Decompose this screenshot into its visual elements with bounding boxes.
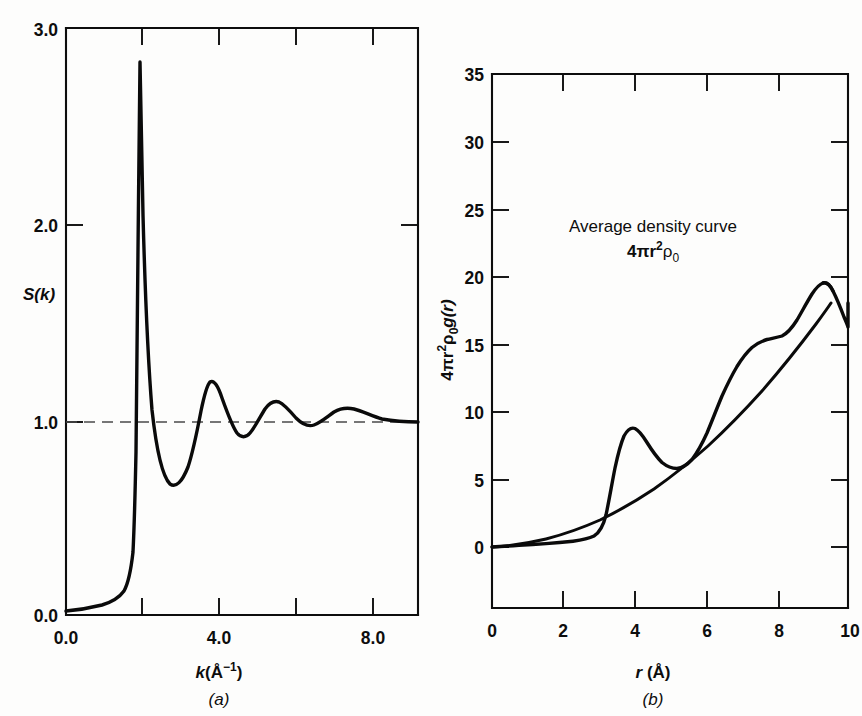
panel-b-xlabel-2: 2 [558,621,568,641]
x-title-paren-close: ) [237,663,243,682]
panel-b-ylabel-0: 0 [474,538,484,558]
svg-text:4πr2ρ0g(r): 4πr2ρ0g(r) [435,299,461,381]
curve-radial-distribution [492,283,848,547]
panel-b-ylabel-20: 20 [465,268,485,288]
panel-b-xlabel-4: 4 [630,621,640,641]
panel-b-x-ticks [563,74,779,608]
annotation-line-2: 4πr2ρ0 [627,239,679,265]
panel-b-xlabel-6: 6 [702,621,712,641]
annotation-line-1: Average density curve [569,217,737,236]
curve-radial-distribution-tail [823,283,833,291]
angstrom-icon: Å [211,663,223,682]
panel-b-x-axis-title: r (Å) [636,663,671,682]
axis-top-right [492,74,848,608]
panel-b-xlabel-10: 10 [840,621,860,641]
panel-a-ylabel-0: 0.0 [34,606,59,626]
panel-b-svg: Average density curve 4πr2ρ0 35 30 25 20… [431,0,862,716]
angstrom-icon: (Å) [647,663,671,682]
panel-a-x-ticks [142,28,373,615]
y-title-g-of-r: g(r) [438,299,457,329]
panel-a-axes [66,28,418,615]
panel-a-y-axis-title: S(k) [23,285,55,304]
average-density-annotation: Average density curve 4πr2ρ0 [569,217,737,265]
svg-text:k(Å−1): k(Å−1) [196,660,243,682]
panel-a-y-ticks [66,225,418,422]
panel-b-ylabel-30: 30 [465,133,485,153]
y-title-prefix: 4πr [438,351,457,380]
panel-b-ylabel-25: 25 [465,201,485,221]
curve-average-density [492,303,831,547]
annot-rho-subscript: 0 [672,251,679,265]
axis-left-bottom [66,28,418,615]
panel-b-letter: (b) [643,690,664,709]
panel-a-ylabel-2: 2.0 [34,216,59,236]
axis-top-right [66,28,418,615]
x-title-exponent: −1 [223,660,237,674]
panel-b-ylabel-10: 10 [465,403,485,423]
panel-b-ylabel-35: 35 [465,65,485,85]
panel-a-ylabel-3: 3.0 [34,20,59,40]
curve-structure-factor [66,62,418,611]
panel-a-structure-factor: 3.0 2.0 1.0 0.0 0.0 4.0 8.0 S(k) k(Å−1) … [0,0,431,716]
panel-b-xlabel-0: 0 [487,621,497,641]
panel-b-axes [492,74,848,608]
panel-b-ylabel-5: 5 [474,471,484,491]
panel-b-y-ticks [492,142,848,547]
panel-a-svg: 3.0 2.0 1.0 0.0 0.0 4.0 8.0 S(k) k(Å−1) … [0,0,431,716]
panel-b-y-axis-title: 4πr2ρ0g(r) [435,299,461,381]
panel-a-xlabel-0: 0.0 [54,628,79,648]
annot-prefix: 4πr [627,242,656,261]
axis-left-bottom [492,74,848,608]
panel-b-xlabel-8: 8 [774,621,784,641]
panel-a-letter: (a) [209,690,230,709]
panel-a-xlabel-4: 4.0 [207,628,232,648]
figure-root: 3.0 2.0 1.0 0.0 0.0 4.0 8.0 S(k) k(Å−1) … [0,0,862,716]
panel-b-ylabel-15: 15 [465,336,485,356]
y-title-rho: ρ [438,334,457,345]
panel-a-x-axis-title: k(Å−1) [196,660,243,682]
annot-rho: ρ [663,242,673,261]
panel-b-radial-distribution: Average density curve 4πr2ρ0 35 30 25 20… [431,0,862,716]
panel-a-xlabel-8: 8.0 [361,628,386,648]
panel-a-ylabel-1: 1.0 [34,413,59,433]
